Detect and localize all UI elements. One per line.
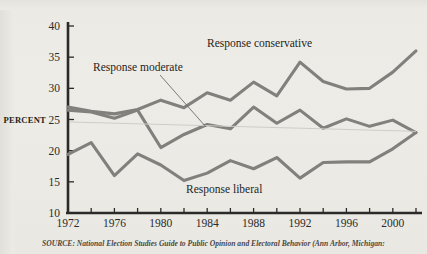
x-tick-label: 1972 bbox=[57, 217, 80, 229]
y-tick-label: 40 bbox=[49, 20, 61, 32]
line-chart-figure: 1015202530354019721976198019841988199219… bbox=[0, 0, 427, 254]
x-tick-label: 1992 bbox=[289, 217, 312, 229]
x-tick-label: 1980 bbox=[149, 217, 172, 229]
annotations-group: Response conservativeResponse moderateRe… bbox=[93, 37, 312, 196]
y-tick-label: 25 bbox=[49, 114, 61, 126]
x-tick-label: 1988 bbox=[242, 217, 265, 229]
y-tick-label: 15 bbox=[49, 176, 61, 188]
y-axis-title: PERCENT bbox=[4, 115, 47, 125]
y-tick-label: 20 bbox=[49, 145, 61, 157]
series-annotation-1: Response moderate bbox=[93, 61, 183, 74]
chart-canvas: 1015202530354019721976198019841988199219… bbox=[0, 0, 427, 254]
x-tick-label: 1984 bbox=[196, 217, 219, 229]
x-tick-label: 2000 bbox=[381, 217, 404, 229]
y-tick-label: 35 bbox=[49, 51, 61, 63]
series-line-2 bbox=[68, 133, 416, 181]
series-annotation-0: Response conservative bbox=[207, 37, 312, 50]
x-tick-label: 1976 bbox=[103, 217, 126, 229]
series-annotation-2: Response liberal bbox=[186, 183, 262, 196]
source-note: SOURCE: National Election Studies Guide … bbox=[42, 239, 427, 249]
x-tick-label: 1996 bbox=[335, 217, 358, 229]
y-tick-label: 30 bbox=[49, 82, 61, 94]
